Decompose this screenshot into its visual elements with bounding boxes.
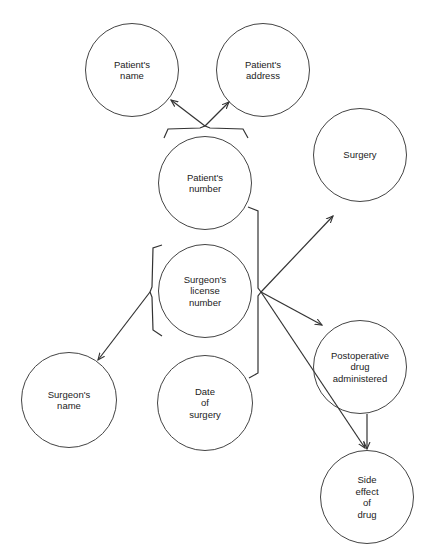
arrow-to-patients-address	[205, 102, 229, 126]
arrow-to-postoperative-drug	[261, 292, 322, 325]
node-label: Date of surgery	[189, 386, 221, 421]
arrow-to-patients-name	[171, 100, 205, 126]
node-label: Postoperative drug administered	[331, 350, 389, 385]
node-surgery: Surgery	[313, 108, 407, 202]
arrow-to-surgery	[261, 216, 333, 292]
node-surgeons-license-number: Surgeon's license number	[158, 244, 252, 338]
node-postoperative-drug-administered: Postoperative drug administered	[313, 320, 407, 414]
node-patients-number: Patient's number	[158, 136, 252, 230]
arrow-to-surgeons-name	[98, 292, 150, 360]
node-label: Surgeon's license number	[184, 274, 226, 309]
node-label: Side effect of drug	[355, 474, 378, 520]
node-side-effect-of-drug: Side effect of drug	[320, 450, 414, 544]
node-label: Patient's address	[245, 59, 281, 82]
node-label: Patient's name	[114, 59, 150, 82]
node-label: Surgery	[343, 149, 376, 161]
node-surgeons-name: Surgeon's name	[21, 352, 117, 448]
node-patients-address: Patient's address	[216, 23, 310, 117]
node-patients-name: Patient's name	[85, 23, 179, 117]
node-date-of-surgery: Date of surgery	[157, 355, 253, 451]
node-label: Surgeon's name	[48, 389, 90, 412]
node-label: Patient's number	[187, 172, 223, 195]
